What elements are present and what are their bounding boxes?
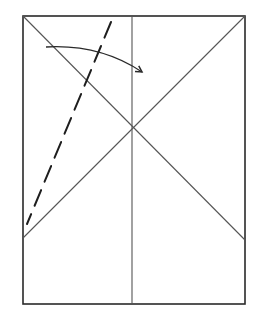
- fold-arrow-curve: [46, 47, 142, 72]
- folding-diagram: [0, 0, 259, 328]
- paper-outline: [23, 16, 245, 304]
